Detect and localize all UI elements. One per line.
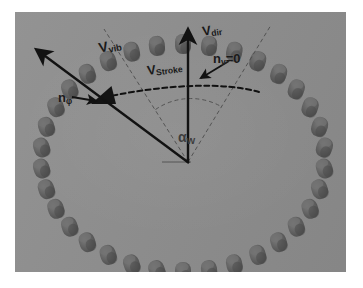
- v-dir-label: Vdir: [201, 21, 223, 40]
- cylinder-element: [268, 230, 290, 254]
- n-phi-base: n: [58, 90, 66, 105]
- cylinder-element: [36, 177, 58, 201]
- cylinder-element: [309, 177, 331, 201]
- nv-base: n: [213, 51, 221, 66]
- cylinder-element: [31, 156, 53, 180]
- cylinder-element: [36, 115, 58, 139]
- cylinder-element: [148, 35, 166, 57]
- figure-root: Vvib Vdir VStroke nv=0 nφ αW: [0, 0, 363, 288]
- cylinder-element: [268, 62, 290, 86]
- cylinder-element: [77, 230, 99, 254]
- alpha-base: α: [178, 129, 187, 145]
- cylinder-cap: [176, 262, 189, 271]
- nv-suffix: =0: [226, 51, 241, 66]
- cylinder-shadow: [180, 42, 191, 54]
- diagram-panel: Vvib Vdir VStroke nv=0 nφ αW: [15, 12, 346, 272]
- n-phi-sub: φ: [66, 96, 72, 106]
- cylinder-element: [121, 252, 143, 272]
- v-dir-sub: dir: [210, 27, 222, 39]
- cylinder-element: [314, 135, 336, 159]
- cylinder-element: [31, 135, 53, 159]
- cylinder-element: [122, 40, 142, 63]
- cylinder-element: [286, 215, 308, 239]
- n-phi-label: nφ: [58, 90, 72, 106]
- cylinder-element: [97, 243, 119, 267]
- n-phi-pointer-arrow: [72, 97, 96, 101]
- cylinder-element: [247, 49, 268, 73]
- cylinder-cap: [176, 34, 189, 43]
- cylinder-element: [59, 215, 81, 239]
- cylinder-element: [309, 115, 331, 139]
- cylinder-element: [299, 95, 321, 119]
- cylinder-element: [286, 77, 308, 101]
- cylinder-element: [200, 259, 218, 272]
- alpha-sub: W: [187, 136, 196, 146]
- cylinder-element: [247, 243, 268, 267]
- alpha-w-label: αW: [178, 129, 195, 146]
- cylinder-element: [299, 197, 321, 221]
- cylinder-element: [224, 253, 244, 272]
- cylinder-element: [175, 262, 191, 272]
- cylinder-element: [314, 156, 336, 180]
- v-stroke-arrow: [101, 86, 259, 98]
- cylinder-ring: [31, 34, 335, 272]
- cylinder-element: [146, 258, 168, 272]
- cylinder-element: [45, 197, 67, 221]
- nv-zero-label: nv=0: [213, 51, 241, 67]
